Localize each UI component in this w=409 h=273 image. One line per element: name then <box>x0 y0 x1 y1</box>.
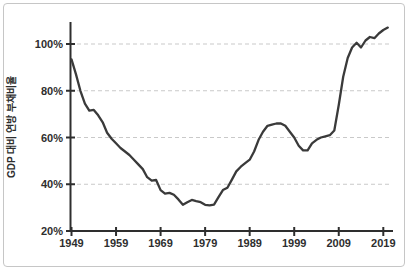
y-tick-label: 80% <box>41 85 63 97</box>
axes <box>70 22 394 232</box>
x-tick-label: 1949 <box>59 237 83 249</box>
gridlines <box>70 44 392 184</box>
x-tick-labels: 19491959196919791989199920092019 <box>59 237 395 249</box>
y-tick-label: 20% <box>41 225 63 237</box>
x-tick-label: 1999 <box>282 237 306 249</box>
x-tick-label: 2019 <box>371 237 395 249</box>
x-tick-label: 2009 <box>327 237 351 249</box>
y-axis-title: GDP 대비 연방 부채비율 <box>5 76 17 178</box>
x-tick-label: 1989 <box>237 237 261 249</box>
line-chart: 20%40%60%80%100% 19491959196919791989199… <box>0 0 409 273</box>
y-tick-labels: 20%40%60%80%100% <box>35 38 63 237</box>
x-tick-label: 1959 <box>104 237 128 249</box>
x-tick-label: 1969 <box>148 237 172 249</box>
y-tick-label: 100% <box>35 38 63 50</box>
y-tick-label: 60% <box>41 132 63 144</box>
y-tick-label: 40% <box>41 178 63 190</box>
x-tick-label: 1979 <box>193 237 217 249</box>
debt-ratio-line <box>72 28 388 206</box>
